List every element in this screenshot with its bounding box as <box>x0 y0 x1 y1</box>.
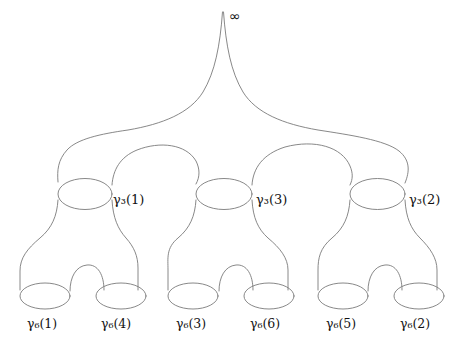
gamma3-1-label: γ₃(1) <box>113 193 144 206</box>
surface-diagram <box>0 0 463 349</box>
gamma3-2-label: γ₃(2) <box>409 193 440 206</box>
cusp-label: ∞ <box>229 9 241 23</box>
gamma6-6-cuff <box>244 283 294 309</box>
gamma6-1-cuff <box>20 283 70 309</box>
gamma6-2-label: γ₆(2) <box>400 318 430 331</box>
cusp-left-outline <box>58 12 223 182</box>
pants-b-inner-arch <box>219 265 253 291</box>
gamma6-5-cuff <box>318 283 368 309</box>
figure-canvas: ∞ γ₃(1) γ₃(3) γ₃(2) γ₆(1) γ₆(4) γ₆(3) γ₆… <box>0 0 463 349</box>
pants-a-inner-arch <box>70 265 104 291</box>
gamma6-3-label: γ₆(3) <box>176 318 206 331</box>
pants-c-inner-arch <box>368 265 402 291</box>
gamma6-4-label: γ₆(4) <box>101 318 131 331</box>
top-pants-arch-right <box>252 144 352 185</box>
gamma3-1-cuff <box>58 179 112 210</box>
gamma6-6-label: γ₆(6) <box>250 318 280 331</box>
gamma6-3-cuff <box>168 283 218 309</box>
pants-c-right-outline <box>405 200 437 290</box>
gamma3-2-cuff <box>350 179 405 210</box>
gamma3-3-label: γ₃(3) <box>256 193 287 206</box>
gamma6-1-label: γ₆(1) <box>27 318 57 331</box>
gamma6-2-cuff <box>394 283 444 309</box>
gamma3-3-cuff <box>196 179 252 210</box>
pants-a-right-outline <box>112 200 138 290</box>
pants-a-left-outline <box>20 200 58 290</box>
pants-b-right-outline <box>252 200 288 290</box>
pants-b-left-outline <box>168 200 196 290</box>
pants-c-left-outline <box>318 200 350 290</box>
gamma6-4-cuff <box>96 283 146 309</box>
gamma6-5-label: γ₆(5) <box>326 318 356 331</box>
cusp-right-outline <box>224 12 409 183</box>
top-pants-arch-left <box>112 145 199 185</box>
